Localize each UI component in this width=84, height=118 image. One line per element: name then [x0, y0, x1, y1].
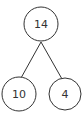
- part-value-right: 4: [62, 88, 69, 101]
- connector-line-right: [41, 42, 62, 79]
- number-bond-diagram: 14 10 4: [0, 0, 84, 118]
- part-value-left: 10: [12, 88, 26, 101]
- whole-value: 14: [34, 18, 48, 31]
- connector-line-left: [21, 42, 41, 78]
- part-node-right: 4: [49, 78, 81, 110]
- part-node-left: 10: [2, 77, 36, 111]
- whole-node: 14: [24, 7, 58, 41]
